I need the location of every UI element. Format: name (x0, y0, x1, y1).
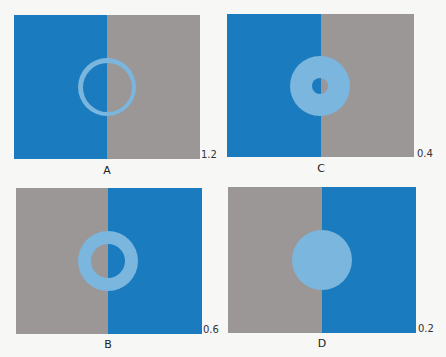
panel-a (14, 15, 200, 159)
ratio-value: 0.6 (203, 324, 219, 335)
annulus-hole (91, 244, 125, 278)
panel-label: A (103, 164, 111, 177)
annulus-hole (312, 78, 328, 94)
panel-label: D (318, 337, 326, 350)
panel-label: B (104, 338, 112, 351)
panel-label: C (317, 162, 325, 175)
ratio-value: 0.4 (417, 148, 433, 159)
panel-b (16, 188, 202, 334)
disk (292, 230, 352, 290)
annulus-hole (83, 63, 132, 112)
ratio-value: 1.2 (201, 149, 217, 160)
ratio-value: 0.2 (418, 323, 434, 334)
panel-d (228, 187, 416, 333)
panel-c (227, 14, 414, 157)
